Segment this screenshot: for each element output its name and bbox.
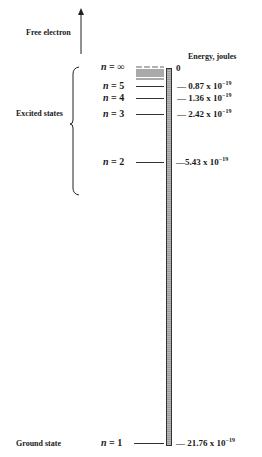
level-line-n2 xyxy=(136,162,164,163)
level-label-n4: n = 4 xyxy=(103,92,124,103)
excited-states-label: Excited states xyxy=(16,109,63,118)
level-line-n3 xyxy=(136,114,164,115)
level-value-n4: — 1.36 x 10−19 xyxy=(177,92,231,103)
level-label-n2: n = 2 xyxy=(103,156,124,167)
excited-states-bracket xyxy=(68,66,80,196)
level-label-n-inf: n = ∞ xyxy=(101,61,124,72)
free-electron-label: Free electron xyxy=(26,28,71,37)
level-label-n5: n = 5 xyxy=(103,80,124,91)
level-line-n1 xyxy=(134,443,164,444)
level-value-n5: — 0.87 x 10−19 xyxy=(177,80,231,91)
energy-column xyxy=(166,68,172,446)
level-value-n1: — 21.76 x 10−19 xyxy=(176,437,235,448)
level-value-n2: —5.43 x 10−19 xyxy=(176,156,228,167)
level-label-n1: n = 1 xyxy=(101,437,122,448)
level-line-n4 xyxy=(136,98,164,99)
energy-axis-label: Energy, joules xyxy=(188,52,236,61)
level-value-n-inf: 0 xyxy=(176,63,181,73)
ground-state-label: Ground state xyxy=(16,439,61,448)
continuum-lines xyxy=(136,66,164,80)
level-label-n3: n = 3 xyxy=(103,108,124,119)
level-value-n3: — 2.42 x 10−19 xyxy=(177,108,231,119)
level-line-n5 xyxy=(136,86,164,87)
free-electron-arrow xyxy=(78,8,84,54)
